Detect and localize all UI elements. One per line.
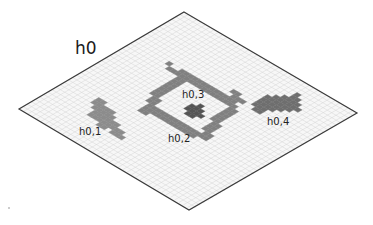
- label-h0-3: h0,3: [182, 90, 204, 100]
- scan-artifact: [8, 207, 10, 209]
- label-h0-1: h0,1: [79, 127, 101, 137]
- label-h0-2: h0,2: [168, 134, 190, 144]
- hierarchy-grid-diagram: [0, 0, 373, 225]
- label-h0: h0: [75, 40, 97, 57]
- label-h0-4: h0,4: [267, 117, 289, 127]
